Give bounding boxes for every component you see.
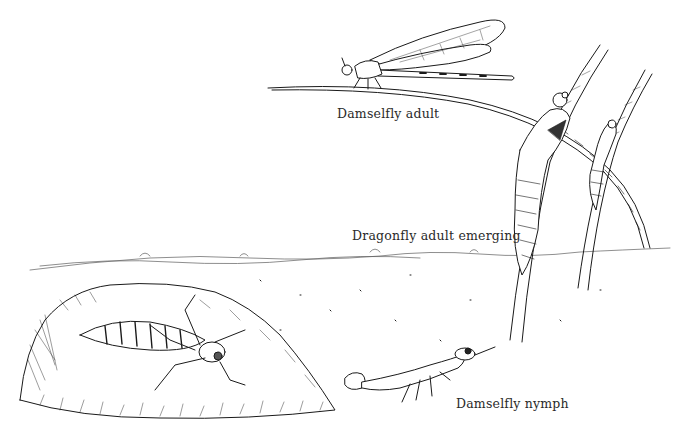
water-surface xyxy=(30,248,670,270)
damselfly-adult xyxy=(342,20,514,89)
dragonfly-emerging-large xyxy=(514,92,570,275)
drawing xyxy=(0,0,680,436)
illustration-canvas: Damselfly adult Dragonfly adult emerging… xyxy=(0,0,680,436)
label-damselfly-adult: Damselfly adult xyxy=(337,106,439,121)
label-damselfly-nymph: Damselfly nymph xyxy=(456,396,569,411)
reed-stem-right xyxy=(578,70,652,290)
damselfly-nymph xyxy=(345,347,495,402)
label-dragonfly-emerging: Dragonfly adult emerging xyxy=(352,228,521,243)
rock xyxy=(20,284,335,419)
pond-floor-specks xyxy=(260,275,601,341)
